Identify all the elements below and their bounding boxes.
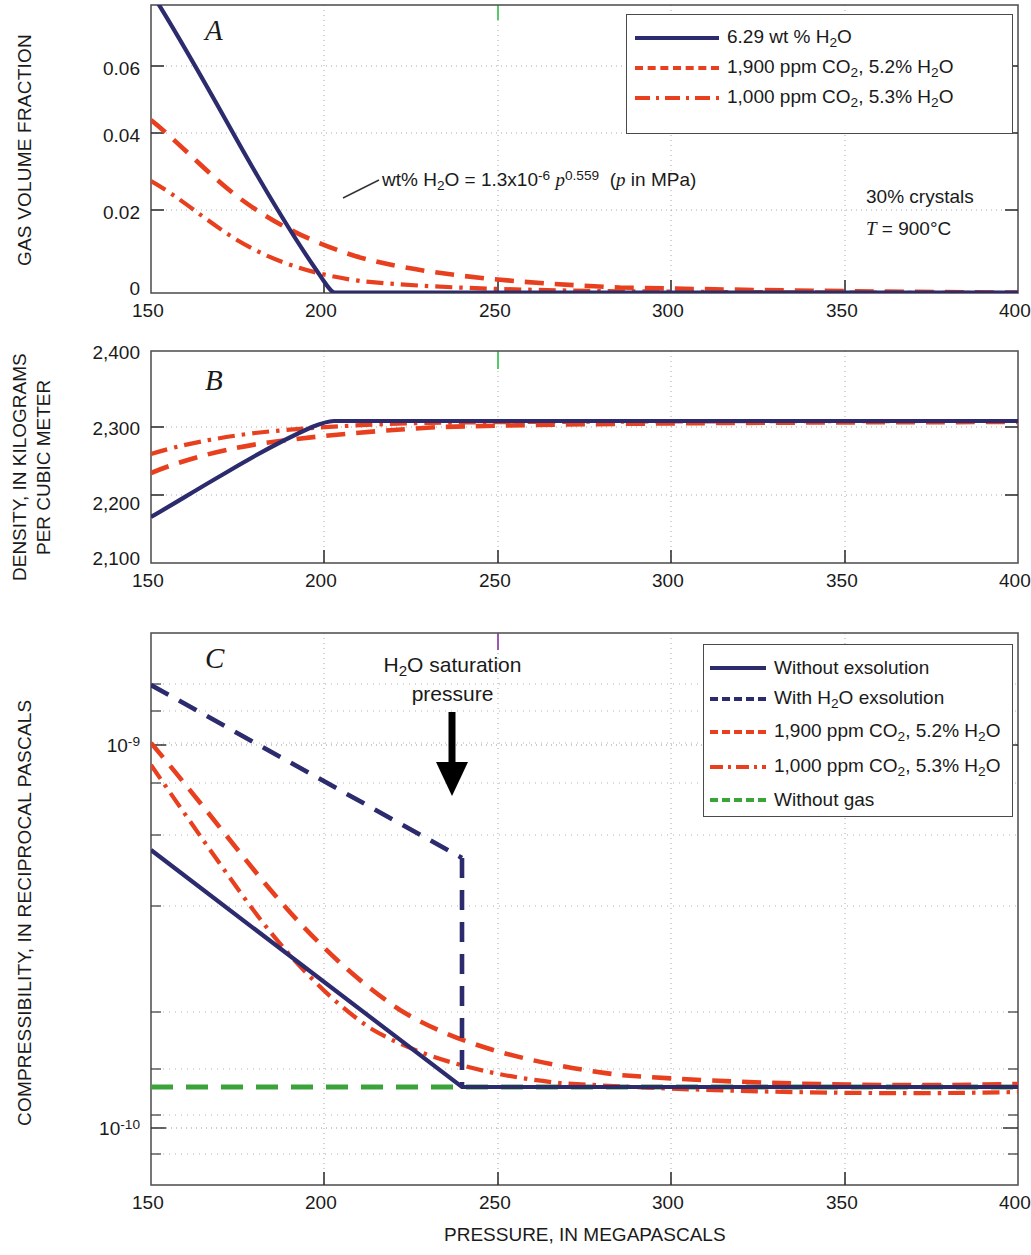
panel-c-xtick-5: 400 [999, 1192, 1031, 1214]
legend-swatch-dashed-red [635, 61, 719, 75]
legend-swatch-dashdot-red [710, 760, 766, 774]
legend-item[interactable]: 1,900 ppm CO2, 5.2% H2O [710, 714, 1004, 749]
panel-a-xtick-0: 150 [132, 300, 164, 322]
panel-b-xtick-4: 350 [826, 570, 858, 592]
legend-label: Without exsolution [766, 657, 929, 679]
legend-swatch-dashed-green [710, 793, 766, 807]
panel-b-xtick-2: 250 [479, 570, 511, 592]
panel-a-temperature-note: T = 900°C [866, 218, 951, 240]
legend-label: 1,000 ppm CO2, 5.3% H2O [766, 755, 1000, 779]
legend-label: 6.29 wt % H2O [719, 26, 852, 50]
saturation-note-line1: H2O saturation [384, 653, 522, 676]
legend-swatch-dashed-red [710, 725, 766, 739]
panel-c-xtick-2: 250 [479, 1192, 511, 1214]
legend-item[interactable]: 1,900 ppm CO2, 5.2% H2O [635, 53, 1002, 83]
panel-a-legend: 6.29 wt % H2O 1,900 ppm CO2, 5.2% H2O 1,… [626, 14, 1013, 134]
figure-root: GAS VOLUME FRACTION 0.06 0.04 0.02 0 A [0, 0, 1031, 1255]
legend-swatch-dashed-navy [710, 692, 766, 706]
legend-label: 1,000 ppm CO2, 5.3% H2O [719, 86, 953, 110]
panel-b-xtick-0: 150 [132, 570, 164, 592]
legend-swatch-solid-navy [635, 31, 719, 45]
panel-c-xtick-0: 150 [132, 1192, 164, 1214]
panel-b-xtick-1: 200 [305, 570, 337, 592]
legend-item[interactable]: Without gas [710, 784, 1004, 815]
panel-a-crystals-note: 30% crystals [866, 186, 974, 208]
panel-b-xtick-5: 400 [999, 570, 1031, 592]
panel-b-plot [0, 345, 1031, 585]
legend-item[interactable]: 1,000 ppm CO2, 5.3% H2O [710, 749, 1004, 784]
legend-label: With H2O exsolution [766, 687, 944, 711]
saturation-pressure-annotation: H2O saturation pressure [320, 652, 585, 707]
legend-label: Without gas [766, 789, 874, 811]
panel-c-xtick-4: 350 [826, 1192, 858, 1214]
x-axis-label: PRESSURE, IN MEGAPASCALS [444, 1224, 726, 1246]
legend-item[interactable]: With H2O exsolution [710, 683, 1004, 714]
panel-c-xtick-1: 200 [305, 1192, 337, 1214]
legend-item[interactable]: 6.29 wt % H2O [635, 23, 1002, 53]
legend-swatch-dashdot-red [635, 91, 719, 105]
panel-c-legend: Without exsolution With H2O exsolution 1… [703, 644, 1013, 817]
legend-swatch-solid-navy [710, 661, 766, 675]
panel-a-xtick-2: 250 [479, 300, 511, 322]
legend-item[interactable]: 1,000 ppm CO2, 5.3% H2O [635, 83, 1002, 113]
panel-a-xtick-3: 300 [652, 300, 684, 322]
legend-label: 1,900 ppm CO2, 5.2% H2O [719, 56, 953, 80]
panel-a-xtick-1: 200 [305, 300, 337, 322]
panel-a-xtick-5: 400 [999, 300, 1031, 322]
panel-b-xtick-3: 300 [652, 570, 684, 592]
legend-item[interactable]: Without exsolution [710, 652, 1004, 683]
saturation-note-line2: pressure [412, 682, 494, 705]
legend-label: 1,900 ppm CO2, 5.2% H2O [766, 720, 1000, 744]
panel-a-formula-annotation: wt% H2O = 1.3x10-6 p0.559 (p in MPa) [382, 168, 696, 193]
panel-a-xtick-4: 350 [826, 300, 858, 322]
panel-c-xtick-3: 300 [652, 1192, 684, 1214]
